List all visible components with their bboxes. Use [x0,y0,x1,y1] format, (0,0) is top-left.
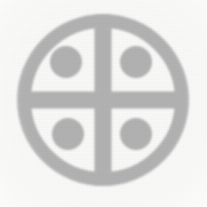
dot-top-right [120,46,152,78]
quartered-circle-emblem [0,0,207,207]
cross-horizontal-bar [23,92,183,109]
dot-bottom-left [52,118,84,150]
dot-bottom-right [120,118,152,150]
image-canvas [0,0,207,207]
emblem-group [23,14,183,186]
dot-top-left [50,46,82,78]
